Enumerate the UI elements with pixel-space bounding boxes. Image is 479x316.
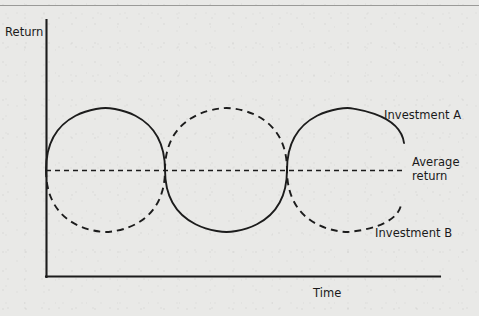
average-return-label-line1: Average — [412, 155, 460, 169]
x-axis-label: Time — [313, 286, 341, 300]
series-label-investment-b: Investment B — [375, 226, 452, 240]
series-line-investment-a — [46, 108, 404, 232]
figure-canvas: Return Time Investment A Averagereturn I… — [0, 0, 479, 316]
y-axis-label: Return — [5, 25, 43, 39]
average-return-label-line2: return — [412, 169, 447, 183]
average-return-label: Averagereturn — [412, 155, 460, 183]
chart-plot-area — [0, 0, 479, 316]
series-label-investment-a: Investment A — [384, 108, 461, 122]
